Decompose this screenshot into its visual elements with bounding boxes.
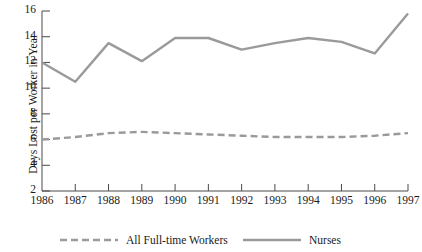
chart-legend: All Full-time Workers Nurses (0, 232, 422, 250)
legend-item-nurses: Nurses (243, 232, 341, 248)
x-tick-label: 1997 (388, 194, 422, 206)
series-line-all-full-time-workers (42, 132, 408, 140)
legend-swatch-dashed (60, 235, 118, 245)
y-tick-label: 16 (14, 3, 36, 15)
y-tick-label: 6 (14, 132, 36, 144)
data-series (42, 14, 408, 140)
y-tick-label: 12 (14, 54, 36, 66)
y-tick-label: 14 (14, 29, 36, 41)
chart-container: Days Lost per Worker in Year 24681012141… (0, 0, 422, 252)
y-tick-label: 10 (14, 80, 36, 92)
legend-swatch-solid (243, 235, 301, 245)
series-line-nurses (42, 14, 408, 82)
y-tick-label: 4 (14, 157, 36, 169)
plot-area (0, 0, 422, 252)
y-axis-ticks (42, 11, 50, 191)
axes (42, 11, 408, 191)
legend-label-all-full-time-workers: All Full-time Workers (126, 234, 228, 246)
x-axis-ticks (75, 184, 408, 191)
legend-item-all-full-time-workers: All Full-time Workers (60, 232, 228, 248)
legend-label-nurses: Nurses (309, 234, 341, 246)
y-tick-label: 8 (14, 106, 36, 118)
